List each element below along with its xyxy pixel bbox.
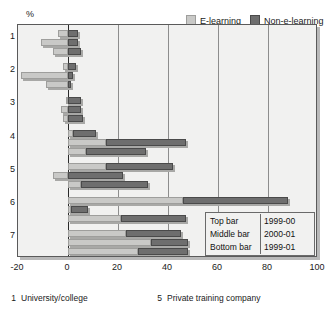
bar-6-1999-01-non-e-learning xyxy=(121,215,186,222)
bar-5-1999-01-non-e-learning xyxy=(81,181,149,188)
bar-6-2000-01-non-e-learning xyxy=(71,206,89,213)
bar-1-2000-01-non-e-learning xyxy=(68,39,78,46)
key-row-bottom-bar-label: Bottom bar xyxy=(210,241,252,254)
bar-7-2000-01-e-learning xyxy=(68,239,151,246)
bar-2-1999-00-non-e-learning xyxy=(68,63,76,70)
bar-6-1999-00-e-learning xyxy=(68,197,183,204)
y-tick-label-5: 5 xyxy=(2,164,15,174)
bar-5-1999-00-e-learning xyxy=(68,163,106,170)
key-row-top-bar-label: Top bar xyxy=(210,215,238,228)
bar-group-4-1999-00 xyxy=(18,130,317,137)
bar-group-4-2000-01 xyxy=(18,139,317,146)
bar-group-5-1999-00 xyxy=(18,163,317,170)
bar-group-2-1999-01 xyxy=(18,81,317,88)
y-tick-label-3: 3 xyxy=(2,97,15,107)
bar-group-1-1999-01 xyxy=(18,48,317,55)
footnote-1-text: University/college xyxy=(21,293,88,303)
bar-4-2000-01-non-e-learning xyxy=(106,139,186,146)
footnote-1-number: 1 xyxy=(4,293,16,303)
bar-7-1999-00-e-learning xyxy=(68,230,126,237)
footnote-5-text: Private training company xyxy=(167,293,261,303)
bar-group-3-1999-00 xyxy=(18,97,317,104)
bar-group-6-1999-00 xyxy=(18,197,317,204)
bar-group-5-2000-01 xyxy=(18,172,317,179)
bar-1-1999-00-e-learning xyxy=(58,30,68,37)
bar-3-2000-01-non-e-learning xyxy=(68,106,81,113)
x-tick-label-40: 40 xyxy=(154,262,180,273)
y-tick-label-2: 2 xyxy=(2,64,15,74)
bar-2-2000-01-non-e-learning xyxy=(68,72,73,79)
bar-6-1999-01-e-learning xyxy=(68,215,121,222)
bar-4-1999-00-non-e-learning xyxy=(73,130,96,137)
y-tick-label-7: 7 xyxy=(2,230,15,240)
key-row-middle-bar-value: 2000-01 xyxy=(264,228,295,241)
bar-group-3-2000-01 xyxy=(18,106,317,113)
bar-2-2000-01-e-learning xyxy=(21,72,69,79)
key-row-bottom-bar-value: 1999-01 xyxy=(264,241,295,254)
legend-item-e-learning: E-learning xyxy=(186,10,241,21)
bar-3-1999-00-non-e-learning xyxy=(68,97,81,104)
bar-4-1999-01-e-learning xyxy=(68,148,86,155)
y-tick-label-1: 1 xyxy=(2,31,15,41)
y-tick-label-6: 6 xyxy=(2,197,15,207)
chart-page: % E-learning Non-e-learning 1 2 3 4 5 6 … xyxy=(0,0,331,311)
bar-group-5-1999-01 xyxy=(18,181,317,188)
bar-5-1999-01-e-learning xyxy=(68,181,81,188)
key-row-middle-bar-label: Middle bar xyxy=(210,228,250,241)
footnote-5-number: 5 xyxy=(150,293,162,303)
bar-1-1999-01-non-e-learning xyxy=(68,48,81,55)
y-tick-label-4: 4 xyxy=(2,131,15,141)
key-row-top-bar: Top bar 1999-00 xyxy=(206,215,316,228)
key-row-top-bar-value: 1999-00 xyxy=(264,215,295,228)
bar-4-1999-01-non-e-learning xyxy=(86,148,146,155)
bar-1-2000-01-e-learning xyxy=(41,39,69,46)
bar-group-3-1999-01 xyxy=(18,115,317,122)
bar-group-2-2000-01 xyxy=(18,72,317,79)
footnote-5: 5Private training company xyxy=(150,293,261,305)
bar-1-1999-00-non-e-learning xyxy=(68,30,78,37)
bar-7-1999-01-non-e-learning xyxy=(138,248,188,255)
bar-5-1999-00-non-e-learning xyxy=(106,163,174,170)
bar-5-2000-01-e-learning xyxy=(53,172,68,179)
bar-order-key-box: Top bar 1999-00 Middle bar 2000-01 Botto… xyxy=(205,212,315,256)
bar-3-2000-01-e-learning xyxy=(61,106,69,113)
bar-7-2000-01-non-e-learning xyxy=(151,239,189,246)
bar-7-1999-00-non-e-learning xyxy=(126,230,181,237)
bar-group-1-2000-01 xyxy=(18,39,317,46)
key-row-middle-bar: Middle bar 2000-01 xyxy=(206,228,316,241)
bar-5-2000-01-non-e-learning xyxy=(68,172,123,179)
x-tick-label-60: 60 xyxy=(204,262,230,273)
x-tick-label-100: 100 xyxy=(304,262,330,273)
bar-2-1999-01-non-e-learning xyxy=(68,81,71,88)
bar-1-1999-01-e-learning xyxy=(53,48,68,55)
bar-3-1999-01-non-e-learning xyxy=(68,115,83,122)
x-tick-label-0: 0 xyxy=(54,262,80,273)
x-tick-label-20: 20 xyxy=(104,262,130,273)
x-tick-label-80: 80 xyxy=(254,262,280,273)
x-tick-label-minus20: -20 xyxy=(4,262,30,273)
footnote-1: 1University/college xyxy=(4,293,88,305)
bar-2-1999-01-e-learning xyxy=(46,81,69,88)
bar-4-2000-01-e-learning xyxy=(68,139,106,146)
bar-group-4-1999-01 xyxy=(18,148,317,155)
key-row-bottom-bar: Bottom bar 1999-01 xyxy=(206,241,316,254)
bar-7-1999-01-e-learning xyxy=(68,248,138,255)
legend-item-non-e-learning: Non-e-learning xyxy=(250,10,324,21)
bar-6-1999-00-non-e-learning xyxy=(183,197,288,204)
y-axis-unit-label: % xyxy=(26,9,34,19)
chart-legend: % E-learning Non-e-learning xyxy=(0,9,331,22)
bar-group-2-1999-00 xyxy=(18,63,317,70)
bar-group-1-1999-00 xyxy=(18,30,317,37)
